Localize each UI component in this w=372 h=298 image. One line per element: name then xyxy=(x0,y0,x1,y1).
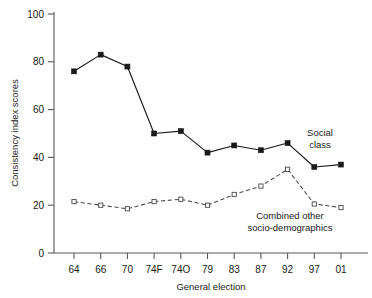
x-tick-label: 74F xyxy=(145,264,162,275)
y-tick-label: 80 xyxy=(33,56,45,67)
data-point xyxy=(179,197,183,201)
data-point xyxy=(232,192,236,196)
x-axis-title: General election xyxy=(176,281,245,292)
x-tick-label: 74O xyxy=(171,264,190,275)
y-axis-title: Consistency index scores xyxy=(9,79,20,187)
x-tick-label: 66 xyxy=(95,264,107,275)
chart-series-layer xyxy=(72,52,344,211)
data-point xyxy=(152,200,156,204)
data-point xyxy=(178,129,183,134)
x-tick-label: 83 xyxy=(229,264,241,275)
data-point xyxy=(152,131,157,136)
annotation-social-class-line2: class xyxy=(309,139,331,150)
x-tick-label: 01 xyxy=(335,264,347,275)
y-tick-label: 60 xyxy=(33,104,45,115)
data-point xyxy=(205,203,209,207)
x-tick-label: 64 xyxy=(68,264,80,275)
y-tick-label: 40 xyxy=(33,152,45,163)
x-tick-label: 97 xyxy=(309,264,321,275)
y-tick-label: 100 xyxy=(27,9,44,20)
data-point xyxy=(339,205,343,209)
data-point xyxy=(72,200,76,204)
data-point xyxy=(125,64,130,69)
data-point xyxy=(232,143,237,148)
data-point xyxy=(259,184,263,188)
y-tick-label: 20 xyxy=(33,200,45,211)
data-point xyxy=(72,69,77,74)
data-point xyxy=(312,202,316,206)
annotation-combined-other-line1: Combined other xyxy=(256,210,324,221)
data-point xyxy=(312,164,317,169)
y-axis-ticks: 020406080100 xyxy=(27,9,54,259)
annotation-combined-other-line2: socio-demographics xyxy=(247,222,332,233)
x-tick-label: 70 xyxy=(122,264,134,275)
data-point xyxy=(98,52,103,57)
x-tick-label: 87 xyxy=(255,264,267,275)
data-point xyxy=(339,162,344,167)
data-point xyxy=(99,203,103,207)
data-point xyxy=(125,207,129,211)
data-point xyxy=(285,141,290,146)
line-chart: 020406080100 64667074F74O798387929701 Co… xyxy=(0,0,372,298)
x-tick-label: 92 xyxy=(282,264,294,275)
chart-container: 020406080100 64667074F74O798387929701 Co… xyxy=(0,0,372,298)
x-axis-ticks: 64667074F74O798387929701 xyxy=(68,253,347,275)
data-point xyxy=(258,148,263,153)
annotation-social-class-line1: Social xyxy=(307,127,333,138)
data-point xyxy=(286,167,290,171)
data-point xyxy=(205,150,210,155)
x-tick-label: 79 xyxy=(202,264,214,275)
y-tick-label: 0 xyxy=(38,248,44,259)
